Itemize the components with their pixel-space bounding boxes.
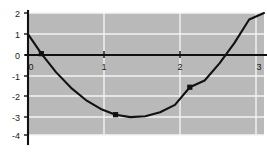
data-point-marker xyxy=(39,51,44,56)
y-tick-label-neg3: -3 xyxy=(12,113,20,123)
y-tick-label-neg2: -2 xyxy=(12,92,20,102)
x-tick-label-0: 0 xyxy=(28,62,33,72)
y-tick-label-1: 1 xyxy=(15,30,20,40)
x-tick-label-1: 1 xyxy=(101,62,106,72)
quadratic-curve-plot: 2 1 0 -1 -2 -3 -4 0 1 2 3 xyxy=(0,0,267,154)
y-tick-label-0: 0 xyxy=(15,51,20,61)
data-point-marker xyxy=(187,85,192,90)
x-tick-label-3: 3 xyxy=(256,62,261,72)
y-axis-tick-labels: 2 1 0 -1 -2 -3 -4 xyxy=(12,9,20,141)
x-tick-label-2: 2 xyxy=(177,62,182,72)
data-point-marker xyxy=(113,112,118,117)
chart-figure: 2 1 0 -1 -2 -3 -4 0 1 2 3 xyxy=(0,0,267,154)
y-tick-label-neg1: -1 xyxy=(12,72,20,82)
y-tick-label-neg4: -4 xyxy=(12,131,20,141)
y-tick-label-2: 2 xyxy=(15,9,20,19)
